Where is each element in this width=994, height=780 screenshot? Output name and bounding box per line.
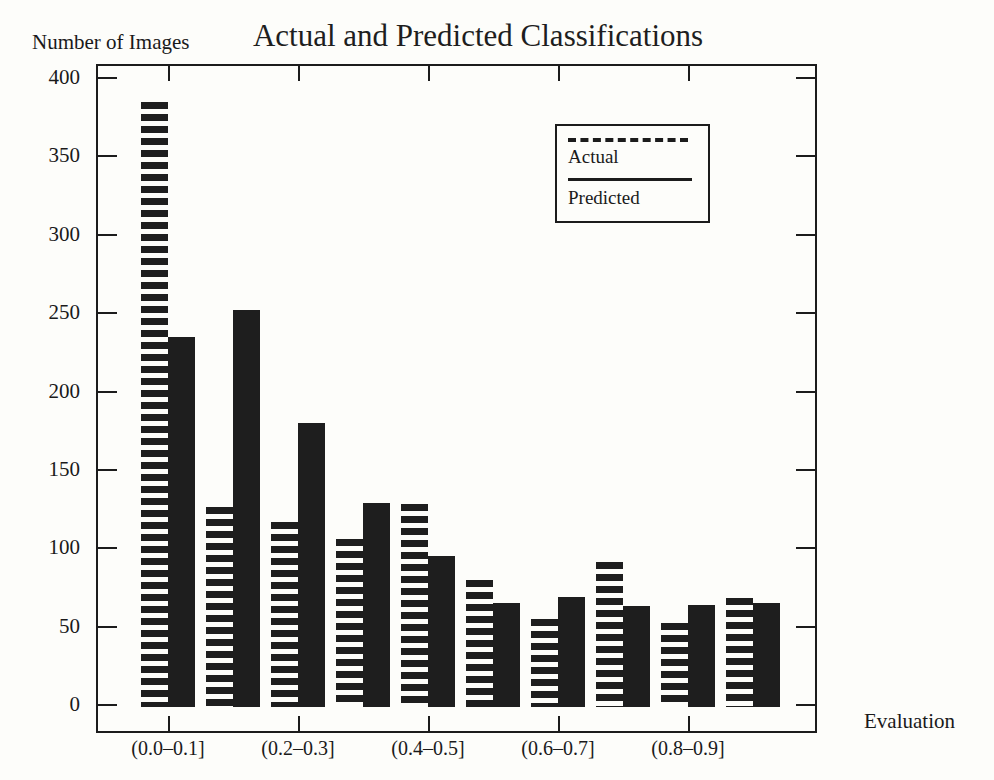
legend: Actual Predicted	[555, 124, 710, 223]
bar-actual-2	[271, 522, 298, 707]
y-tick-label-200: 200	[18, 381, 80, 402]
y-tick-label-50: 50	[18, 616, 80, 637]
x-tick-top-4	[688, 66, 690, 81]
x-tick-top-1	[298, 66, 300, 81]
x-tick-top-3	[558, 66, 560, 81]
bar-predicted-8	[688, 605, 715, 707]
bar-actual-1	[206, 507, 233, 707]
y-tick-label-250: 250	[18, 302, 80, 323]
bar-predicted-7	[623, 606, 650, 707]
y-tick-right-100	[796, 547, 816, 549]
y-tick-right-150	[796, 469, 816, 471]
bar-actual-7	[596, 562, 623, 707]
bar-actual-0	[141, 102, 168, 707]
bar-actual-6	[531, 619, 558, 707]
y-tick-label-100: 100	[18, 537, 80, 558]
y-tick-right-400	[796, 77, 816, 79]
x-tick-label-2: (0.4–0.5]	[391, 737, 464, 760]
y-tick-left-50	[97, 626, 117, 628]
bar-actual-9	[726, 598, 753, 707]
y-tick-label-300: 300	[18, 224, 80, 245]
bar-predicted-0	[168, 337, 195, 707]
y-tick-left-350	[97, 155, 117, 157]
bar-predicted-5	[493, 603, 520, 707]
y-tick-right-200	[796, 391, 816, 393]
bar-actual-5	[466, 580, 493, 707]
x-tick-top-5	[815, 66, 817, 81]
bar-actual-3	[336, 539, 363, 707]
x-tick-bottom-1	[298, 716, 300, 731]
legend-label-predicted: Predicted	[568, 188, 640, 208]
y-tick-right-250	[796, 312, 816, 314]
bar-predicted-1	[233, 310, 260, 707]
bar-predicted-4	[428, 556, 455, 707]
legend-label-actual: Actual	[568, 147, 619, 167]
x-tick-bottom-3	[558, 716, 560, 731]
y-tick-right-50	[796, 626, 816, 628]
bar-actual-8	[661, 623, 688, 707]
y-tick-label-0: 0	[18, 694, 80, 715]
y-tick-left-150	[97, 469, 117, 471]
scanned-chart-page: Number of Images Actual and Predicted Cl…	[0, 0, 994, 780]
y-tick-label-400: 400	[18, 67, 80, 88]
y-tick-left-100	[97, 547, 117, 549]
bar-predicted-3	[363, 503, 390, 707]
y-tick-left-400	[97, 77, 117, 79]
y-tick-left-300	[97, 234, 117, 236]
x-tick-bottom-0	[168, 716, 170, 731]
x-tick-label-1: (0.2–0.3]	[261, 737, 334, 760]
x-tick-top-0	[168, 66, 170, 81]
bar-predicted-6	[558, 597, 585, 707]
y-tick-label-350: 350	[18, 145, 80, 166]
y-tick-left-250	[97, 312, 117, 314]
bar-actual-4	[401, 504, 428, 707]
x-tick-top-2	[428, 66, 430, 81]
bar-predicted-2	[298, 423, 325, 707]
x-tick-label-3: (0.6–0.7]	[521, 737, 594, 760]
y-tick-right-300	[796, 234, 816, 236]
x-tick-bottom-4	[688, 716, 690, 731]
y-tick-label-150: 150	[18, 459, 80, 480]
y-tick-right-0	[796, 704, 816, 706]
x-tick-label-4: (0.8–0.9]	[651, 737, 724, 760]
y-tick-left-200	[97, 391, 117, 393]
y-tick-left-0	[97, 704, 117, 706]
x-tick-bottom-2	[428, 716, 430, 731]
x-tick-label-0: (0.0–0.1]	[131, 737, 204, 760]
bar-predicted-9	[753, 603, 780, 707]
y-tick-right-350	[796, 155, 816, 157]
x-tick-bottom-5	[815, 716, 817, 731]
legend-solid-line-icon	[568, 178, 692, 181]
legend-dashed-line-icon	[568, 138, 688, 142]
chart-layer: 050100150200250300350400(0.0–0.1](0.2–0.…	[0, 0, 994, 780]
